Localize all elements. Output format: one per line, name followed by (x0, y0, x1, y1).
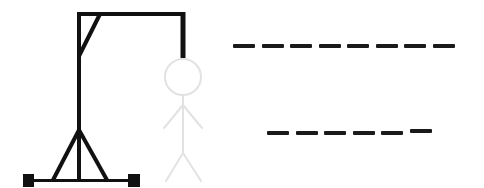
letter-slot (233, 44, 255, 48)
figure-left-leg (166, 153, 183, 181)
figure-right-arm (183, 105, 202, 128)
letter-slot (290, 44, 312, 48)
gallows-foot-left (23, 174, 34, 187)
gallows-brace (79, 14, 100, 56)
letter-slot (433, 44, 455, 48)
letter-slot (404, 44, 426, 48)
figure-right-leg (183, 153, 201, 181)
letter-slot (262, 44, 284, 48)
letter-slot (353, 131, 375, 135)
letter-slot (324, 131, 346, 135)
gallows-foot-right (128, 174, 140, 187)
word-1-slots (233, 44, 461, 48)
gallows-leg-right (79, 130, 107, 180)
letter-slot (376, 44, 398, 48)
hangman-figure (164, 59, 202, 181)
figure-head (165, 59, 201, 95)
letter-slot (347, 44, 369, 48)
letter-slot (267, 131, 289, 135)
gallows (23, 12, 185, 187)
word-2-slots (267, 131, 438, 135)
letter-slot (410, 129, 432, 133)
hangman-board (0, 0, 484, 188)
letter-slot (381, 131, 403, 135)
letter-slot (319, 44, 341, 48)
figure-left-arm (164, 105, 183, 128)
hangman-drawing (0, 0, 484, 188)
letter-slot (296, 131, 318, 135)
gallows-leg-left (53, 130, 79, 180)
